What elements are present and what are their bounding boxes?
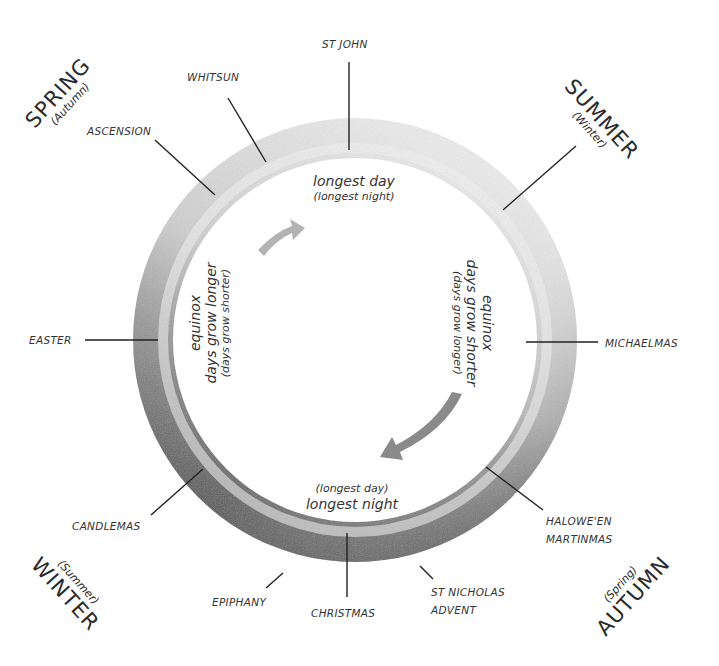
inner-left-text: equinox days grow longer (days grow shor… (187, 258, 233, 388)
leader-summer (503, 146, 576, 210)
festival-ascension: ASCENSION (87, 123, 151, 140)
festival-easter: EASTER (29, 332, 72, 349)
inner-right-text: equinox days grow shorter (days grow lon… (450, 258, 496, 388)
days-grow-longer-alt-label: (days grow longer) (450, 258, 464, 388)
longest-night-alt-label: (longest night) (299, 190, 409, 204)
festival-st-john: ST JOHN (322, 36, 368, 53)
days-grow-shorter-alt-label: (days grow shorter) (219, 258, 233, 388)
festival-halloween: HALOWE'EN (546, 513, 612, 530)
festival-advent: ADVENT (431, 602, 476, 619)
festival-st-nicholas: ST NICHOLAS (431, 584, 505, 601)
inner-bottom-text: (longest day) longest night (297, 482, 407, 513)
festival-martinmas: MARTINMAS (546, 531, 613, 548)
inner-top-text: longest day (longest night) (299, 173, 409, 204)
longest-day-alt-label: (longest day) (297, 482, 407, 496)
festival-candlemas: CANDLEMAS (72, 518, 141, 535)
equinox-left-label: equinox (187, 258, 203, 388)
equinox-right-label: equinox (480, 258, 496, 388)
festival-christmas: CHRISTMAS (311, 605, 375, 622)
arrow-up-right-icon (258, 219, 305, 256)
arrow-down-left-icon (380, 392, 462, 460)
leader-st-nicholas (420, 566, 433, 579)
festival-michaelmas: MICHAELMAS (605, 335, 678, 352)
longest-day-label: longest day (299, 173, 409, 190)
year-wheel-diagram (0, 0, 719, 666)
festival-epiphany: EPIPHANY (212, 594, 266, 611)
days-grow-longer-label: days grow longer (203, 258, 219, 388)
festival-whitsun: WHITSUN (187, 69, 239, 86)
longest-night-label: longest night (297, 496, 407, 513)
leader-epiphany (266, 573, 283, 588)
leader-ascension (155, 140, 215, 195)
days-grow-shorter-label: days grow shorter (464, 258, 480, 388)
